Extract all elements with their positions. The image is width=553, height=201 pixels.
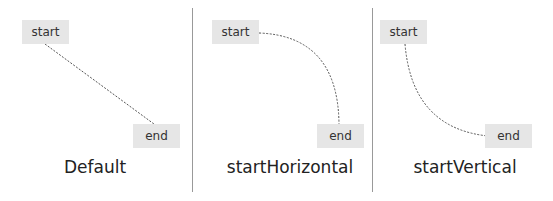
- caption-start-horizontal: startHorizontal: [210, 157, 370, 177]
- end-label: end: [497, 129, 520, 143]
- start-label: start: [32, 25, 60, 39]
- divider-2: [372, 8, 373, 192]
- start-node-default: start: [22, 20, 69, 44]
- start-label: start: [222, 25, 250, 39]
- end-node-start-vertical: end: [485, 124, 532, 148]
- end-node-default: end: [133, 124, 180, 148]
- start-label: start: [390, 25, 418, 39]
- end-node-start-horizontal: end: [317, 124, 364, 148]
- start-node-start-vertical: start: [380, 20, 427, 44]
- start-node-start-horizontal: start: [212, 20, 259, 44]
- caption-start-vertical: startVertical: [400, 157, 530, 177]
- connector-start-horizontal: [259, 33, 339, 124]
- caption-default: Default: [40, 157, 150, 177]
- connector-start-vertical: [405, 44, 488, 136]
- end-label: end: [329, 129, 352, 143]
- connector-default: [45, 44, 154, 124]
- end-label: end: [145, 129, 168, 143]
- divider-1: [192, 8, 193, 192]
